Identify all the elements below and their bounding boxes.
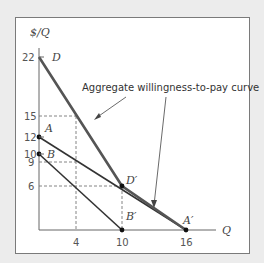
label-d-prime: D′ [125, 174, 138, 187]
annotation-arrows [96, 97, 166, 205]
y-tick-6: 6 [28, 181, 34, 192]
y-axis-label: $/Q [30, 26, 50, 39]
x-tick-4: 4 [73, 237, 79, 248]
y-tick-9: 9 [28, 157, 34, 168]
x-tick-10: 10 [116, 237, 129, 248]
label-d: D [51, 51, 61, 64]
y-tick-15: 15 [24, 111, 37, 122]
annotation-text: Aggregate willingness-to-pay curve [82, 82, 259, 93]
label-a-prime: A′ [182, 214, 194, 227]
x-tick-16: 16 [180, 237, 193, 248]
y-tick-22: 22 [22, 52, 35, 63]
y-tick-12: 12 [24, 132, 37, 143]
label-b-prime: B′ [125, 210, 137, 223]
arrow-head-1 [94, 113, 101, 120]
label-a: A [44, 122, 53, 135]
x-axis-label: Q [222, 224, 231, 237]
chart-canvas: $/Q Q 22 15 12 10 9 6 4 10 16 D A B D′ B… [0, 0, 264, 263]
label-b: B [46, 148, 55, 161]
